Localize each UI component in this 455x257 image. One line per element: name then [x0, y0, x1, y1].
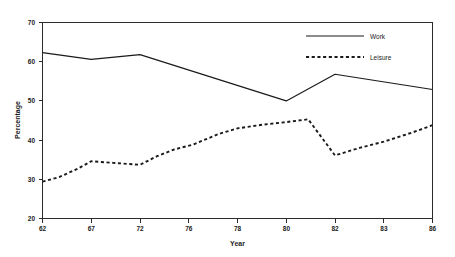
- x-tick-label-72: 72: [136, 225, 144, 232]
- x-tick-label-76: 76: [185, 225, 193, 232]
- series-line-leisure: [43, 119, 433, 181]
- y-axis-ticks: [39, 23, 43, 219]
- x-tick-label-80: 80: [283, 225, 291, 232]
- y-axis-title: Percentage: [14, 101, 22, 139]
- legend-label-leisure: Leisure: [370, 54, 392, 61]
- x-tick-label-67: 67: [88, 225, 96, 232]
- y-tick-label-20: 20: [28, 215, 36, 222]
- y-tick-label-40: 40: [28, 137, 36, 144]
- line-chart-figure: 70 60 50 40 30 20 62 67 72 76 78 80: [0, 0, 455, 257]
- y-tick-label-30: 30: [28, 176, 36, 183]
- chart-legend: Work Leisure: [306, 33, 392, 61]
- x-tick-label-82: 82: [331, 225, 339, 232]
- legend-label-work: Work: [370, 33, 386, 40]
- x-tick-label-86: 86: [429, 225, 437, 232]
- y-axis-tick-labels: 70 60 50 40 30 20: [28, 19, 36, 222]
- x-tick-label-62: 62: [39, 225, 47, 232]
- y-tick-label-50: 50: [28, 97, 36, 104]
- x-axis-ticks: [43, 219, 433, 223]
- x-axis-title: Year: [230, 240, 245, 247]
- y-tick-label-60: 60: [28, 58, 36, 65]
- x-tick-label-78: 78: [234, 225, 242, 232]
- y-tick-label-70: 70: [28, 19, 36, 26]
- x-axis-tick-labels: 62 67 72 76 78 80 82 83 86: [39, 225, 437, 232]
- plot-frame: [43, 23, 433, 219]
- chart-canvas: 70 60 50 40 30 20 62 67 72 76 78 80: [0, 0, 455, 257]
- x-tick-label-83: 83: [380, 225, 388, 232]
